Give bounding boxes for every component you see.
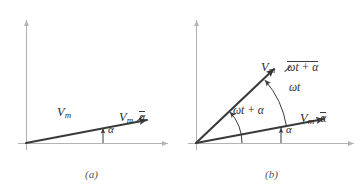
panel-b-arc-inner-label: ωt + α (233, 105, 264, 117)
panel-a-tip-subscript: m (127, 115, 134, 125)
panel-b-caption: (b) (265, 168, 278, 180)
panel-b-static-subscript: m (308, 116, 315, 126)
panel-a-caption: (a) (85, 168, 98, 180)
panel-a-tip-vm: Vm (119, 110, 133, 124)
panel-b-rot-subscript: m (269, 65, 276, 75)
angle-glyph-icon (285, 61, 292, 72)
panel-a-tip-label: Vm α (119, 107, 145, 125)
panel-b-static-symbol: V (300, 111, 308, 125)
angle-glyph-icon (137, 111, 144, 122)
panel-b-group (188, 20, 354, 150)
panel-a-alpha-marker: α (108, 124, 114, 135)
panel-b-rotated-tip-label: Vm ωt + α (261, 57, 318, 75)
angle-glyph-icon (318, 112, 325, 123)
panel-a-vm-subscript: m (65, 110, 72, 120)
panel-b-rot-symbol: V (261, 60, 269, 74)
panel-b-arc-outer-label: ωt (289, 82, 300, 94)
panel-b-arc-omega-t (265, 80, 287, 126)
panel-a-vm-symbol: V (57, 105, 65, 119)
panel-b-alpha-marker: α (286, 124, 292, 135)
panel-b-static-tip-label: Vm α (300, 108, 326, 126)
phasor-figure: Vm Vm α α (a) Vm ωt + α ωt ωt + α Vm α α… (0, 0, 362, 191)
panel-b-static-vm: Vm (300, 111, 314, 125)
figure-canvas (0, 0, 362, 191)
panel-b-rot-vm: Vm (261, 60, 275, 74)
panel-a-vector-label: Vm (57, 106, 71, 120)
panel-a-group (18, 20, 168, 150)
panel-a-tip-symbol: V (119, 110, 127, 124)
